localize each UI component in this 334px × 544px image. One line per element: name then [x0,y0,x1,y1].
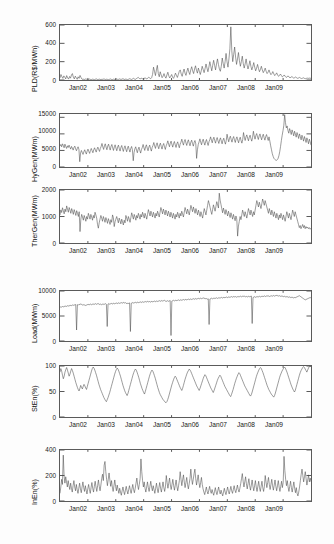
plot-area-thergen [59,189,312,244]
ytick-inen-2: 400 [32,447,56,453]
trace-svg-sten [60,366,311,417]
xtick-hygen-7: Jan09 [257,171,291,178]
trace-svg-load [60,291,311,341]
series-line-sten [60,366,311,403]
plot-area-load [59,290,312,342]
ytick-thergen-0: 0 [30,241,56,247]
ytick-pld-0: 0 [34,78,56,84]
ytick-hygen-2: 10000 [26,128,56,134]
ytick-load-2: 10000 [26,288,56,294]
xtick-thergen-7: Jan09 [257,247,291,254]
axis-label-thergen: TherGen(MWm) [31,195,39,247]
plot-area-pld [59,24,312,81]
ytick-sten-2: 100 [32,363,56,369]
series-line-load [60,295,311,335]
ytick-sten-0: 0 [32,415,56,421]
plot-area-sten [59,365,312,418]
plot-area-hygen [59,113,312,168]
ytick-pld-2: 400 [34,40,56,46]
axis-label-pld: PLD(R$/MWh) [31,45,39,92]
xtick-inen-7: Jan09 [257,505,291,512]
axis-label-hygen: HyGen(MWm) [31,136,39,182]
series-line-hygen [60,115,311,162]
ytick-thergen-2: 2000 [30,187,56,193]
ytick-inen-0: 0 [32,499,56,505]
ytick-hygen-1: 5000 [26,146,56,152]
trace-svg-thergen [60,190,311,243]
trace-svg-pld [60,25,311,80]
ytick-pld-3: 600 [34,22,56,28]
series-line-thergen [60,193,311,236]
xtick-load-7: Jan09 [257,345,291,352]
series-line-inen [60,455,311,496]
ytick-load-1: 5000 [26,313,56,319]
series-line-pld [60,27,311,80]
figure-canvas: PLD(R$/MWh) 600 400 200 0 Jan02 Jan03 Ja… [0,0,334,544]
ytick-hygen-3: 15000 [26,111,56,117]
ytick-pld-1: 200 [34,59,56,65]
ytick-sten-1: 50 [32,389,56,395]
xtick-sten-7: Jan09 [257,421,291,428]
ytick-thergen-1: 1000 [30,214,56,220]
trace-svg-hygen [60,114,311,167]
trace-svg-inen [60,450,311,501]
plot-area-inen [59,449,312,502]
ytick-hygen-0: 0 [26,164,56,170]
ytick-load-0: 0 [26,339,56,345]
axis-label-load: Load(MWm) [31,304,39,343]
ytick-inen-1: 200 [32,473,56,479]
xtick-pld-7: Jan09 [257,84,291,91]
